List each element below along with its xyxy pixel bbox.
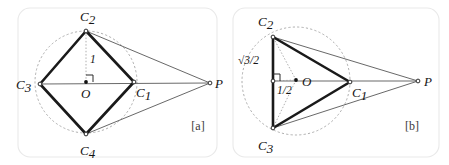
panel-b: C1 C2 C3 P O 1/2 √3/2 [b] bbox=[233, 8, 439, 157]
panel-a: C1 C2 C3 C4 P O 1 [a] bbox=[16, 8, 223, 161]
vertex-c2-b bbox=[271, 35, 275, 39]
vertex-p-a bbox=[208, 81, 212, 85]
vertex-c4-a bbox=[84, 132, 88, 136]
label-p-a: P bbox=[214, 76, 223, 91]
annotation-radius-length-a: 1 bbox=[90, 53, 96, 65]
label-o-a: O bbox=[81, 86, 91, 101]
vertex-o-b bbox=[294, 78, 298, 82]
panel-tag-b: [b] bbox=[405, 119, 419, 133]
vertex-p-b bbox=[416, 79, 420, 83]
geometry-figure: C1 C2 C3 C4 P O 1 [a] bbox=[0, 0, 449, 165]
figure-canvas: C1 C2 C3 C4 P O 1 [a] bbox=[0, 0, 449, 165]
annotation-apothem-b: 1/2 bbox=[277, 84, 292, 96]
vertex-c1-a bbox=[132, 80, 136, 84]
vertex-c1-b bbox=[348, 80, 352, 84]
panel-b-frame bbox=[233, 8, 439, 157]
label-c4-a: C4 bbox=[80, 143, 96, 161]
vertex-c3-a bbox=[38, 82, 42, 86]
vertex-o-a bbox=[84, 80, 88, 84]
vertex-c2-a bbox=[84, 29, 88, 33]
vertex-c3-b bbox=[271, 126, 275, 130]
panel-a-frame bbox=[18, 8, 217, 157]
label-p-b: P bbox=[423, 74, 432, 89]
label-o-b: O bbox=[302, 74, 312, 89]
vertex-apothem-foot-b bbox=[271, 79, 275, 83]
annotation-half-side-b: √3/2 bbox=[238, 54, 259, 66]
panel-tag-a: [a] bbox=[191, 119, 204, 133]
